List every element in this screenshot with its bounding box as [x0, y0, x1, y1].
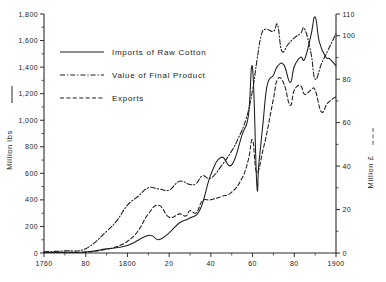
- cotton-industry-line-chart: 02004006008001,0001,2001,4001,6001,800 0…: [0, 0, 386, 282]
- y-axis-right-title: Million £: [366, 155, 375, 188]
- y-axis-left-tick-label: 1,600: [18, 37, 38, 44]
- y-axis-left-tick-label: 1,200: [18, 90, 38, 97]
- y-axis-right-tick-label: 80: [343, 76, 352, 83]
- legend-label-exports: Exports: [112, 94, 144, 103]
- chart-legend: Imports of Raw CottonValue of Final Prod…: [60, 48, 206, 103]
- y-axis-right-tick-label: 100: [343, 32, 356, 39]
- y-axis-left-tick-label: 1,400: [18, 64, 38, 71]
- y-axis-left-tick-label: 800: [25, 143, 38, 150]
- y-axis-left-tick-label: 200: [25, 223, 38, 230]
- x-axis-tick-label: 20: [165, 260, 174, 267]
- x-axis-tick-label: 80: [81, 260, 90, 267]
- x-axis-tick-label: 40: [207, 260, 216, 267]
- y-axis-right-title-group: Million £: [366, 128, 375, 188]
- y-axis-right-tick-label: 110: [343, 11, 355, 18]
- y-axis-left-title-group: Million lbs: [5, 86, 14, 170]
- y-axis-right-ticks: 020406080100110: [336, 11, 355, 257]
- y-axis-left-ticks: 02004006008001,0001,2001,4001,6001,800: [18, 11, 44, 257]
- y-axis-left-tick-label: 400: [25, 196, 38, 203]
- y-axis-right-tick-label: 40: [343, 163, 352, 170]
- y-axis-left-tick-label: 600: [25, 170, 38, 177]
- series-line-exports: [44, 78, 336, 253]
- x-axis-tick-label: 1900: [327, 260, 344, 267]
- y-axis-left-title: Million lbs: [5, 130, 14, 170]
- legend-label-imports-of-raw-cotton: Imports of Raw Cotton: [112, 48, 206, 57]
- x-axis-tick-label: 1800: [119, 260, 136, 267]
- chart-container: 02004006008001,0001,2001,4001,6001,800 0…: [0, 0, 386, 282]
- x-axis-tick-label: 80: [290, 260, 299, 267]
- legend-label-value-of-final-product: Value of Final Product: [112, 71, 206, 80]
- y-axis-left-tick-label: 1,000: [18, 117, 38, 124]
- x-axis-tick-label: 1760: [35, 260, 52, 267]
- y-axis-left-tick-label: 0: [34, 250, 38, 257]
- y-axis-left-tick-label: 1,800: [18, 11, 38, 18]
- y-axis-right-tick-label: 20: [343, 206, 352, 213]
- y-axis-right-tick-label: 60: [343, 119, 352, 126]
- x-axis-ticks: 1760801800204060801900: [35, 253, 344, 267]
- x-axis-tick-label: 60: [248, 260, 257, 267]
- y-axis-right-tick-label: 0: [343, 250, 347, 257]
